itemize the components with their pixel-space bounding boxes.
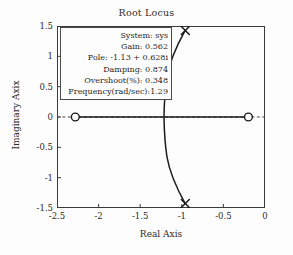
y-tick-label: -1.5 [1,203,53,213]
datatip-system: System: sys [63,30,168,41]
data-tip-box[interactable]: System: sys Gain: 0.562 Pole: -1.13 + 0.… [60,27,172,100]
y-axis-label: Imaginary Axix [11,60,21,170]
y-tick-label: -0.5 [1,142,53,152]
y-tick-label: 1 [1,51,53,61]
open-loop-zero-marker [71,113,79,121]
datatip-damping: Damping: 0.874 [63,64,168,75]
x-tick-label: -1 [178,211,186,221]
x-tick-label: -1.5 [132,211,148,221]
y-tick-label: -1 [1,173,53,183]
datatip-gain: Gain: 0.562 [63,41,168,52]
y-tick-label: 0 [1,112,53,122]
datatip-pole: Pole: -1.13 + 0.628i [63,52,168,63]
x-tick-label: -0.5 [215,211,231,221]
y-tick-label: 1.5 [1,21,53,31]
y-tick-label: 0.5 [1,82,53,92]
x-tick-label: -2 [94,211,102,221]
open-loop-zero-marker [245,113,253,121]
root-locus-chart: Root Locus 1.5 1 0.5 0 -0.5 -1 -1.5 -2.5… [0,0,293,255]
x-tick-label: -2.5 [49,211,65,221]
datatip-frequency: Frequency(rad/sec):1.29 [63,86,168,97]
y-axis-tick-labels: 1.5 1 0.5 0 -0.5 -1 -1.5 [0,0,53,255]
datatip-overshoot: Overshoot(%): 0.348 [63,75,168,86]
x-axis-label: Real Axis [57,229,265,239]
x-tick-label: 0 [262,211,267,221]
